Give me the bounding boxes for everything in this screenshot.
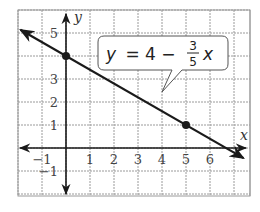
svg-text:5: 5 xyxy=(50,26,58,41)
svg-text:4: 4 xyxy=(158,152,166,167)
svg-text:3: 3 xyxy=(50,72,58,87)
svg-text:1: 1 xyxy=(86,152,94,167)
svg-text:3: 3 xyxy=(134,152,142,167)
svg-text:6: 6 xyxy=(206,152,214,167)
svg-text:5: 5 xyxy=(182,152,190,167)
equation-callout: y = 4 − 3 5 x xyxy=(98,36,228,92)
svg-text:y: y xyxy=(73,9,83,25)
fraction-denominator: 5 xyxy=(189,55,197,69)
coordinate-plane: xy −11234565321−1 y = 4 − 3 5 x xyxy=(0,0,260,212)
svg-text:−1: −1 xyxy=(39,164,58,179)
data-point xyxy=(182,121,190,129)
equation-x: x xyxy=(202,44,214,64)
equation-text: y = 4 − xyxy=(105,44,176,64)
svg-text:1: 1 xyxy=(50,118,58,133)
svg-text:x: x xyxy=(240,127,248,143)
svg-text:2: 2 xyxy=(50,95,58,110)
fraction-numerator: 3 xyxy=(189,39,197,53)
data-point xyxy=(62,52,70,60)
svg-text:2: 2 xyxy=(110,152,118,167)
